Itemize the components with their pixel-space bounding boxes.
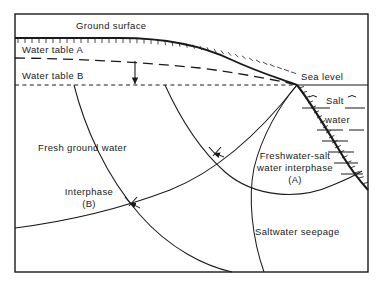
water-table-b-label: Water table B (22, 70, 84, 82)
interphase-a-curve-left (74, 85, 232, 272)
interphase-a-crossing-marker (209, 147, 224, 157)
diagram-root: Ground surface Water table A Water table… (0, 0, 383, 286)
salt-label: Salt (326, 95, 344, 107)
saltwater-seepage-label: Saltwater seepage (255, 226, 340, 238)
water-label: water (325, 114, 350, 126)
water-table-a-label: Water table A (22, 44, 83, 56)
interphase-a-label-line1: Freshwater-salt (244, 150, 346, 162)
interphase-a-label-line2: water interphase (244, 162, 346, 174)
interphase-a-label-line3: (A) (244, 174, 346, 186)
interphase-b-label-line1: Interphase (58, 186, 120, 198)
fresh-ground-water-label: Fresh ground water (38, 142, 127, 154)
interphase-b-label-line2: (B) (58, 198, 120, 210)
ground-surface-label: Ground surface (76, 20, 146, 32)
sea-level-label: Sea level (301, 71, 343, 83)
